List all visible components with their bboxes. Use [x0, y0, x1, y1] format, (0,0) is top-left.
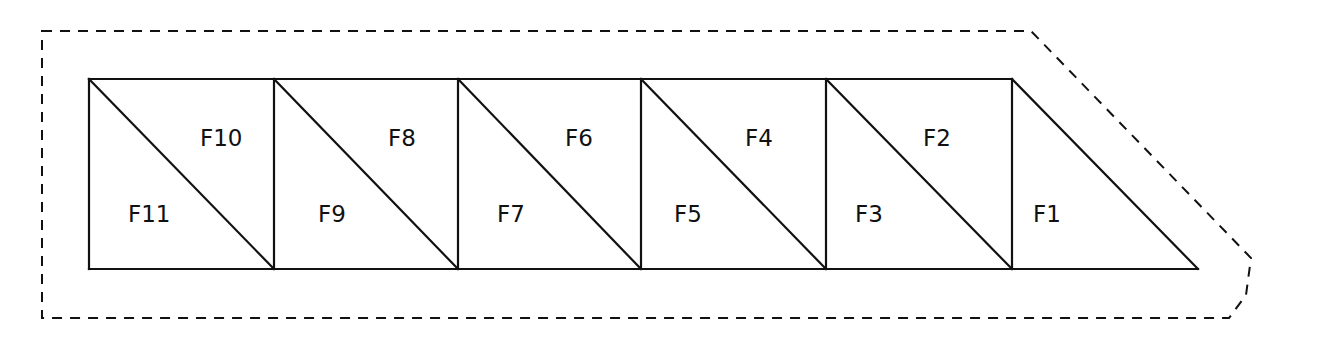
diagonal-member-3 [641, 79, 826, 269]
truss-diagram: F1F2F3F4F5F6F7F8F9F10F11 [0, 0, 1319, 339]
facet-label-f10: F10 [200, 125, 243, 151]
facet-label-f3: F3 [855, 201, 883, 227]
facet-label-f2: F2 [923, 125, 951, 151]
diagonal-member-1 [274, 79, 458, 269]
facet-label-f4: F4 [745, 125, 773, 151]
diagonal-member-2 [458, 79, 641, 269]
diagonal-member-4 [826, 79, 1012, 269]
diagonal-member-0 [89, 79, 274, 269]
facet-label-f11: F11 [128, 201, 171, 227]
facet-label-f1: F1 [1033, 201, 1061, 227]
dashed-boundary-outline [42, 31, 1251, 318]
facet-label-f6: F6 [565, 125, 593, 151]
truss-members [89, 79, 1198, 269]
facet-label-f5: F5 [674, 201, 702, 227]
facet-label-f7: F7 [497, 201, 525, 227]
facet-label-f9: F9 [318, 201, 346, 227]
facet-label-f8: F8 [388, 125, 416, 151]
